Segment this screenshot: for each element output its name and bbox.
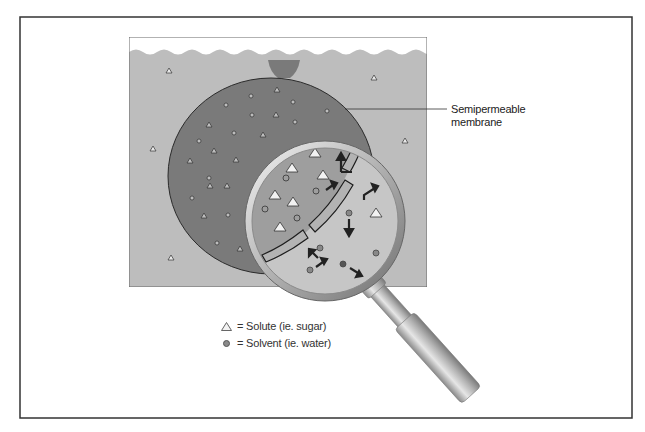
membrane-label-line2: membrane (451, 116, 525, 129)
circle-icon (223, 340, 230, 347)
triangle-icon (221, 322, 232, 331)
membrane-label-line1: Semipermeable (451, 103, 525, 116)
legend-label-solute: = Solute (ie. sugar) (237, 320, 326, 332)
magnifier-handle (360, 273, 481, 403)
legend-item-solvent: = Solvent (ie. water) (223, 337, 331, 349)
membrane-label: Semipermeable membrane (451, 103, 525, 129)
legend-item-solute: = Solute (ie. sugar) (221, 320, 326, 332)
osmosis-diagram (0, 0, 645, 432)
legend-label-solvent: = Solvent (ie. water) (237, 337, 331, 349)
